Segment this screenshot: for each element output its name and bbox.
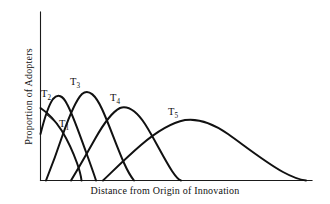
- x-axis-title: Distance from Origin of Innovation: [0, 185, 330, 196]
- curve-label-t4: T4: [110, 92, 120, 106]
- curve-t2: [41, 96, 97, 181]
- curve-label-t5: T5: [168, 106, 178, 120]
- t1-leader-line: [47, 115, 58, 124]
- curve-t5: [103, 120, 306, 181]
- chart-plot-area: T2 T1 T3 T4 T5: [0, 0, 330, 204]
- diffusion-curve-figure: T2 T1 T3 T4 T5 Distance from Origin of I…: [0, 0, 330, 204]
- curve-label-t3: T3: [70, 76, 80, 90]
- y-axis-title: Proportion of Adopters: [23, 17, 34, 177]
- curve-t3: [46, 92, 134, 181]
- curve-label-t2: T2: [41, 88, 51, 102]
